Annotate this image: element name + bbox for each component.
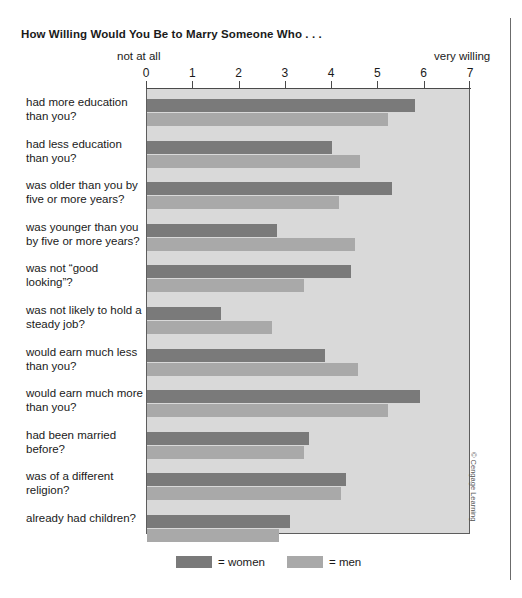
bar-men-5 bbox=[147, 321, 272, 334]
chart-title: How Willing Would You Be to Marry Someon… bbox=[21, 28, 322, 40]
bar-women-8 bbox=[147, 432, 309, 445]
category-label-3: was younger than you by five or more yea… bbox=[26, 220, 146, 248]
category-label-4: was not “good looking”? bbox=[26, 261, 146, 289]
bar-women-5 bbox=[147, 307, 221, 320]
bars-layer bbox=[147, 89, 469, 533]
x-tick-label-5: 5 bbox=[374, 66, 381, 80]
x-tick-mark-4 bbox=[331, 81, 332, 88]
x-tick-label-6: 6 bbox=[420, 66, 427, 80]
bar-men-3 bbox=[147, 238, 355, 251]
x-tick-mark-2 bbox=[239, 81, 240, 88]
category-label-7: would earn much more than you? bbox=[26, 386, 146, 414]
category-label-9: was of a different religion? bbox=[26, 469, 146, 497]
x-tick-label-1: 1 bbox=[189, 66, 196, 80]
bar-women-4 bbox=[147, 265, 351, 278]
legend-label-men: = men bbox=[329, 556, 361, 568]
x-tick-label-0: 0 bbox=[143, 66, 150, 80]
bar-women-1 bbox=[147, 141, 332, 154]
bar-men-7 bbox=[147, 404, 388, 417]
bar-men-4 bbox=[147, 279, 304, 292]
x-axis-tick-labels: 01234567 bbox=[146, 66, 470, 81]
axis-high-label: very willing bbox=[434, 50, 490, 62]
category-label-1: had less education than you? bbox=[26, 137, 146, 165]
bar-men-9 bbox=[147, 487, 341, 500]
bar-women-2 bbox=[147, 182, 392, 195]
x-tick-label-2: 2 bbox=[235, 66, 242, 80]
bar-women-6 bbox=[147, 349, 325, 362]
category-label-2: was older than you by five or more years… bbox=[26, 178, 146, 206]
legend-swatch-men bbox=[287, 556, 323, 568]
legend-label-women: = women bbox=[218, 556, 265, 568]
legend-swatch-women bbox=[176, 556, 212, 568]
x-tick-mark-0 bbox=[146, 81, 147, 88]
bar-men-10 bbox=[147, 529, 279, 542]
category-label-10: already had children? bbox=[26, 511, 146, 525]
x-tick-mark-5 bbox=[377, 81, 378, 88]
x-tick-label-4: 4 bbox=[328, 66, 335, 80]
bar-men-2 bbox=[147, 196, 339, 209]
bar-men-8 bbox=[147, 446, 304, 459]
bar-women-9 bbox=[147, 473, 346, 486]
bar-men-6 bbox=[147, 363, 358, 376]
category-label-list: had more education than you?had less edu… bbox=[0, 88, 146, 534]
axis-low-label: not at all bbox=[117, 50, 160, 62]
category-label-8: had been married before? bbox=[26, 428, 146, 456]
page-margin-rule bbox=[510, 18, 511, 580]
category-label-0: had more education than you? bbox=[26, 95, 146, 123]
legend: = women= men bbox=[176, 556, 361, 568]
bar-women-3 bbox=[147, 224, 277, 237]
bar-men-0 bbox=[147, 113, 388, 126]
x-axis-tick-marks bbox=[146, 81, 470, 88]
x-tick-mark-7 bbox=[469, 81, 470, 88]
x-tick-mark-1 bbox=[192, 81, 193, 88]
bar-men-1 bbox=[147, 155, 360, 168]
category-label-5: was not likely to hold a steady job? bbox=[26, 303, 146, 331]
bar-women-7 bbox=[147, 390, 420, 403]
x-tick-label-3: 3 bbox=[282, 66, 289, 80]
legend-item-men: = men bbox=[287, 556, 361, 568]
copyright-credit: © Cengage Learning bbox=[469, 452, 478, 521]
legend-item-women: = women bbox=[176, 556, 265, 568]
bar-women-0 bbox=[147, 99, 415, 112]
x-tick-label-7: 7 bbox=[467, 66, 474, 80]
x-tick-mark-6 bbox=[424, 81, 425, 88]
bar-women-10 bbox=[147, 515, 290, 528]
x-tick-mark-3 bbox=[285, 81, 286, 88]
category-label-6: would earn much less than you? bbox=[26, 345, 146, 373]
